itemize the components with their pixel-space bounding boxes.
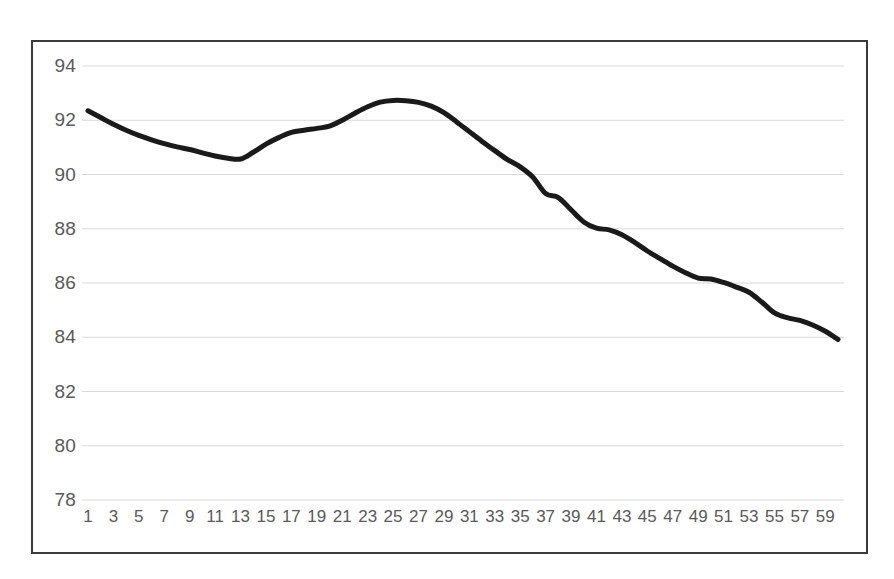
x-tick-label: 51 [711, 508, 737, 525]
x-tick-label: 57 [787, 508, 813, 525]
y-tick-label: 88 [36, 219, 76, 238]
x-tick-label: 1 [75, 508, 101, 525]
x-tick-label: 19 [304, 508, 330, 525]
x-tick-label: 27 [406, 508, 432, 525]
x-tick-label: 13 [228, 508, 254, 525]
x-tick-label: 45 [634, 508, 660, 525]
x-tick-label: 53 [736, 508, 762, 525]
y-tick-label: 90 [36, 165, 76, 184]
x-tick-label: 25 [380, 508, 406, 525]
y-tick-label: 84 [36, 327, 76, 346]
plot-frame [31, 40, 868, 554]
x-tick-label: 7 [151, 508, 177, 525]
x-tick-label: 47 [660, 508, 686, 525]
x-tick-label: 3 [100, 508, 126, 525]
x-tick-label: 33 [482, 508, 508, 525]
x-tick-label: 43 [609, 508, 635, 525]
y-tick-label: 92 [36, 110, 76, 129]
x-tick-label: 9 [177, 508, 203, 525]
x-tick-label: 37 [533, 508, 559, 525]
x-tick-label: 59 [812, 508, 838, 525]
x-tick-label: 17 [278, 508, 304, 525]
y-tick-label: 78 [36, 490, 76, 509]
x-tick-label: 5 [126, 508, 152, 525]
x-tick-label: 23 [355, 508, 381, 525]
x-tick-label: 35 [507, 508, 533, 525]
x-tick-label: 29 [431, 508, 457, 525]
x-tick-label: 41 [583, 508, 609, 525]
y-tick-label: 94 [36, 56, 76, 75]
x-tick-label: 11 [202, 508, 228, 525]
x-tick-label: 39 [558, 508, 584, 525]
x-tick-label: 21 [329, 508, 355, 525]
y-tick-label: 86 [36, 273, 76, 292]
x-tick-label: 31 [456, 508, 482, 525]
chart-figure: 788082848688909294 135791113151719212325… [0, 0, 894, 579]
y-tick-label: 82 [36, 382, 76, 401]
x-tick-label: 55 [761, 508, 787, 525]
y-tick-label: 80 [36, 436, 76, 455]
x-tick-label: 49 [685, 508, 711, 525]
x-tick-label: 15 [253, 508, 279, 525]
